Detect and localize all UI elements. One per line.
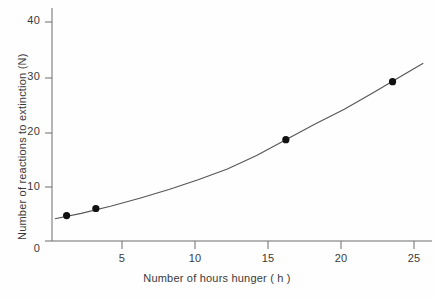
x-axis-ticks [122,241,414,249]
x-axis-title: Number of hours hunger ( h ) [0,272,434,284]
chart-figure: 40 30 20 10 0 5 10 15 20 25 Number of ho… [0,0,434,298]
y-axis-ticks [45,22,52,241]
data-point [282,136,289,143]
x-tick-label-25: 25 [396,252,432,264]
fitted-curve [55,63,423,219]
x-tick-label-5: 5 [104,252,140,264]
chart-plot-area [0,0,434,298]
data-point-group [63,78,396,219]
data-point [63,212,70,219]
y-axis-title: Number of reactions to extinction (N) [16,53,28,240]
x-tick-label-15: 15 [250,252,286,264]
data-point [389,78,396,85]
y-tick-label-0: 0 [4,242,40,254]
y-tick-label-40: 40 [4,14,40,26]
x-tick-label-10: 10 [177,252,213,264]
data-point [92,205,99,212]
x-tick-label-20: 20 [323,252,359,264]
